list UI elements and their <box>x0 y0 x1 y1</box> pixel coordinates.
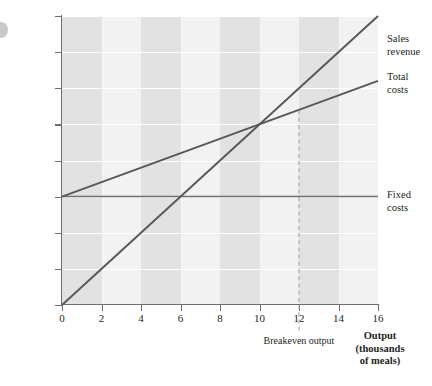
total-costs-line <box>62 81 378 197</box>
series-label-line1: Total <box>387 71 408 82</box>
x-axis-title-line3: of meals) <box>330 355 430 368</box>
x-axis-title-line1: Output <box>330 330 430 343</box>
breakeven-chart: Revenue/costs (£000s) 320 2 <box>0 0 432 386</box>
sales-revenue-line <box>62 16 378 305</box>
series-label-line1: Fixed <box>387 189 411 200</box>
x-axis-title: Output (thousands of meals) <box>330 330 430 368</box>
series-label-line2: costs <box>387 84 408 97</box>
series-label-line1: Sales <box>387 33 409 44</box>
x-axis-title-line2: (thousands <box>330 343 430 356</box>
series-label-fixed-costs: Fixed costs <box>387 189 411 214</box>
series-label-total-costs: Total costs <box>387 71 408 96</box>
series-label-line2: costs <box>387 202 411 215</box>
series-lines <box>0 0 432 386</box>
breakeven-label-line1: Breakeven <box>264 335 307 346</box>
series-label-sales-revenue: Sales revenue <box>387 33 420 58</box>
series-label-line2: revenue <box>387 46 420 59</box>
